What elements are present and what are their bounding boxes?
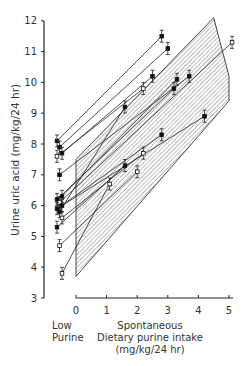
y-tick-label: 8: [31, 139, 37, 150]
data-point: [203, 114, 207, 118]
y-tick-label: 7: [31, 169, 37, 180]
data-point: [160, 133, 164, 137]
chart: 3456789101112 012345 Urine uric acid (mg…: [0, 0, 249, 366]
y-tick-label: 11: [24, 46, 37, 57]
x-tick-label: 3: [165, 305, 171, 316]
x-low-label-2: Purine: [52, 332, 84, 343]
y-tick-label: 6: [31, 200, 37, 211]
data-point: [60, 151, 64, 155]
y-tick-label: 4: [31, 262, 37, 273]
x-tick-label: 5: [226, 305, 232, 316]
data-point: [142, 151, 146, 155]
normal-range-band: [76, 18, 229, 277]
y-tick-label: 10: [24, 77, 37, 88]
band-polygon: [76, 18, 229, 277]
data-point: [58, 173, 62, 177]
data-point: [60, 272, 64, 276]
data-point: [123, 105, 127, 109]
data-point: [230, 41, 234, 45]
y-tick-label: 9: [31, 108, 37, 119]
data-point: [172, 87, 176, 91]
data-point: [160, 34, 164, 38]
data-point: [58, 244, 62, 248]
data-point: [166, 47, 170, 51]
data-point: [123, 164, 127, 168]
y-tick-label: 12: [24, 15, 37, 26]
data-point: [55, 155, 59, 159]
y-axis-label: Urine uric acid (mg/kg/24 hr): [9, 84, 21, 236]
x-tick-label: 4: [195, 305, 201, 316]
data-point: [108, 182, 112, 186]
data-point: [55, 225, 59, 229]
x-tick-label: 2: [134, 305, 140, 316]
x-axis-label-3: (mg/kg/24 hr): [115, 344, 184, 355]
x-low-label: Low: [52, 320, 72, 331]
y-tick-label: 3: [31, 293, 37, 304]
x-tick-label: 0: [73, 305, 79, 316]
y-tick-label: 5: [31, 231, 37, 242]
x-tick-label: 1: [103, 305, 109, 316]
data-point: [187, 74, 191, 78]
data-point: [175, 78, 179, 82]
data-point: [135, 170, 139, 174]
x-axis-label-2: Dietary purine intake: [97, 332, 203, 343]
data-point: [142, 87, 146, 91]
data-point: [151, 74, 155, 78]
data-point: [60, 216, 64, 220]
x-axis-label-1: Spontaneous: [117, 320, 182, 331]
y-ticks: 3456789101112: [24, 15, 44, 303]
